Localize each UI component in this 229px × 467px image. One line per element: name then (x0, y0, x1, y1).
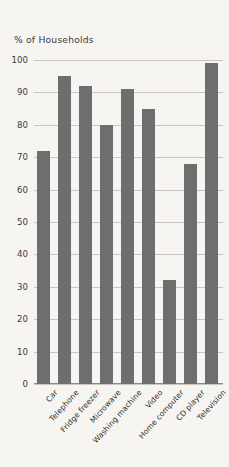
x-axis-tick-labels: CarTelephoneFridge freezerMicrowaveWashi… (34, 388, 229, 467)
y-axis-tick-label: 100 (2, 55, 28, 65)
plot-area (34, 60, 223, 384)
gridline (34, 60, 223, 61)
chart-title: % of Households (14, 34, 94, 45)
bar (121, 89, 134, 384)
bar (184, 164, 197, 384)
y-axis-tick-label: 50 (2, 217, 28, 227)
y-axis-tick-label: 40 (2, 249, 28, 259)
bar (100, 125, 113, 384)
bar (79, 86, 92, 384)
y-axis-tick-label: 10 (2, 347, 28, 357)
y-axis-tick-label: 30 (2, 282, 28, 292)
y-axis-tick-label: 0 (2, 379, 28, 389)
bar (163, 280, 176, 384)
bar (37, 151, 50, 384)
y-axis-tick-label: 70 (2, 152, 28, 162)
bar (58, 76, 71, 384)
y-axis-tick-label: 90 (2, 87, 28, 97)
x-axis-tick-label: Car (44, 388, 60, 404)
gridline (34, 384, 223, 385)
y-axis-tick-label: 20 (2, 314, 28, 324)
bar (205, 63, 218, 384)
y-axis-tick-labels: 1009080706050403020100 (0, 60, 28, 384)
bar-chart: % of Households 1009080706050403020100 C… (0, 0, 229, 467)
y-axis-tick-label: 80 (2, 120, 28, 130)
y-axis-tick-label: 60 (2, 185, 28, 195)
bar (142, 109, 155, 384)
